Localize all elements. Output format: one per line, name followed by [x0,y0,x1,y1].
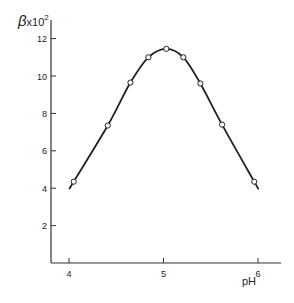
y-tick-label: 12 [37,34,47,44]
x-axis-label: pH [242,275,256,287]
y-tick-label: 10 [37,72,47,82]
chart: 24681012456 βx102 pH [0,0,294,303]
y-tick-label: 2 [42,221,47,231]
x-tick-label: 4 [66,269,71,279]
data-point [219,122,224,127]
data-point [252,179,257,184]
data-line [70,49,259,189]
data-point [128,80,133,85]
y-tick-label: 4 [42,184,47,194]
data-point [181,55,186,60]
data-point [164,46,169,51]
data-curve [70,49,259,189]
y-axis-label: βx102 [17,12,49,29]
data-point [146,55,151,60]
x-tick-label: 6 [255,269,260,279]
data-point [198,81,203,86]
x-tick-label: 5 [161,269,166,279]
data-points [71,46,257,184]
y-tick-label: 8 [42,109,47,119]
axes: 24681012456 [37,20,281,279]
data-point [105,123,110,128]
y-tick-label: 6 [42,146,47,156]
data-point [71,179,76,184]
